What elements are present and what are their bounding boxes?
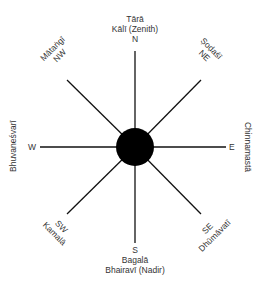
north-deity-zenith: Kālī (Zenith)	[95, 24, 175, 34]
west-deity: Bhuvaneśvarī	[8, 122, 18, 172]
east-dir: E	[229, 142, 235, 152]
south-deity: Bagalā	[85, 255, 185, 265]
west-dir: W	[28, 142, 36, 152]
center-bindu	[116, 128, 154, 166]
label-south: S Bagalā Bhairavī (Nadir)	[85, 245, 185, 275]
north-dir: N	[95, 34, 175, 44]
label-north: Tārā Kālī (Zenith) N	[95, 14, 175, 44]
south-deity-nadir: Bhairavī (Nadir)	[85, 265, 185, 275]
north-deity: Tārā	[95, 14, 175, 24]
east-deity: Chinnamastā	[243, 117, 253, 177]
south-dir: S	[85, 245, 185, 255]
